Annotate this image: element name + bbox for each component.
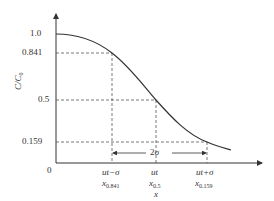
breakthrough-curve-chart: 1.0 0.841 0.5 0.159 0 C/C0 2σ ut−σ x0.84… — [0, 0, 274, 201]
x-tick-ut-minus-sigma: ut−σ — [102, 168, 120, 177]
y-tick-0.5: 0.5 — [38, 95, 49, 104]
x-axis-label: x — [154, 190, 158, 199]
x-tick-ut-plus-sigma: ut+σ — [196, 168, 214, 177]
y-axis-label: C/C0 — [14, 72, 24, 90]
y-tick-0.841: 0.841 — [22, 48, 42, 57]
concentration-curve — [56, 34, 231, 150]
x-tick-x05: x0.5 — [149, 179, 161, 189]
x-tick-x0841: x0.841 — [102, 179, 120, 189]
x-tick-x0159: x0.159 — [195, 179, 213, 189]
y-tick-1.0: 1.0 — [30, 29, 41, 38]
two-sigma-label: 2σ — [150, 148, 159, 157]
dashed-guides — [56, 53, 207, 163]
y-tick-0.159: 0.159 — [22, 137, 42, 146]
x-tick-ut: ut — [151, 168, 158, 177]
origin-label: 0 — [47, 166, 52, 175]
